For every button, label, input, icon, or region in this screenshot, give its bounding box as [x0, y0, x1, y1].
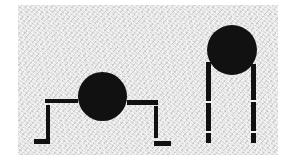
- crouching-figure-body: [78, 72, 127, 121]
- right-leg-gap-upper: [250, 100, 257, 102]
- left-leg-vertical: [46, 105, 50, 143]
- right-arm-horizontal: [127, 100, 158, 105]
- right-foot: [154, 141, 171, 146]
- right-leg-gap-lower: [250, 131, 257, 133]
- standing-figure-body: [207, 25, 257, 75]
- right-leg-vertical: [154, 106, 158, 138]
- left-arm-horizontal: [45, 99, 78, 103]
- left-leg-gap-lower: [205, 131, 212, 133]
- left-leg-gap-upper: [205, 101, 212, 103]
- left-foot: [34, 139, 50, 144]
